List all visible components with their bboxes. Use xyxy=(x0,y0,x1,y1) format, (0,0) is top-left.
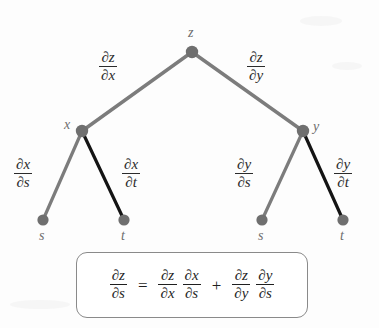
formula-term1-second-fraction: ∂x ∂s xyxy=(183,268,201,302)
node-label-s-left: s xyxy=(39,229,44,243)
node-label-y: y xyxy=(313,120,319,134)
edge-label-dx-dt-denominator: ∂t xyxy=(122,173,140,191)
formula-term2-b-numerator: ∂y xyxy=(256,268,274,284)
node-label-t-left: t xyxy=(121,229,125,243)
formula-lhs-fraction: ∂z ∂s xyxy=(110,268,127,302)
formula-term1-a-denominator: ∂x xyxy=(158,284,176,302)
node-dot-s2 xyxy=(256,214,267,225)
formula-term2-second-fraction: ∂y ∂s xyxy=(256,268,274,302)
formula-term1-a-numerator: ∂z xyxy=(158,268,176,284)
node-label-s-right: s xyxy=(258,229,263,243)
edge-label-dx-ds-denominator: ∂s xyxy=(14,173,32,191)
formula-term1-b-numerator: ∂x xyxy=(183,268,201,284)
node-label-x: x xyxy=(64,118,70,132)
edge-label-dz-dy-denominator: ∂y xyxy=(247,66,265,84)
node-label-t-right: t xyxy=(340,229,344,243)
edge-y-s xyxy=(262,131,303,220)
node-dot-s1 xyxy=(37,214,48,225)
edge-label-dx-dt-numerator: ∂x xyxy=(122,157,140,173)
node-dot-t1 xyxy=(118,214,129,225)
spacer xyxy=(147,276,158,294)
edge-x-t xyxy=(82,131,124,220)
formula-expression: ∂z ∂s = ∂z ∂x ∂x ∂s + ∂z ∂y xyxy=(77,253,307,317)
formula-term2-a-numerator: ∂z xyxy=(232,268,250,284)
formula-lhs-numerator: ∂z xyxy=(110,268,127,284)
edge-label-dz-dx: ∂z ∂x xyxy=(99,50,117,84)
edge-label-dx-dt: ∂x ∂t xyxy=(122,157,140,191)
spacer xyxy=(201,276,212,294)
formula-term1-first-fraction: ∂z ∂x xyxy=(158,268,176,302)
formula-term2-first-fraction: ∂z ∂y xyxy=(232,268,250,302)
edge-x-s xyxy=(43,131,82,220)
spacer xyxy=(127,276,138,294)
edge-label-dy-dt-denominator: ∂t xyxy=(334,173,352,191)
spacer xyxy=(221,276,232,294)
formula-term1-b-denominator: ∂s xyxy=(183,284,201,302)
edge-label-dy-dt: ∂y ∂t xyxy=(334,157,352,191)
formula-box: ∂z ∂s = ∂z ∂x ∂x ∂s + ∂z ∂y xyxy=(76,252,308,318)
edge-label-dy-ds: ∂y ∂s xyxy=(235,157,253,191)
node-dot-y xyxy=(297,125,309,137)
edge-label-dy-ds-numerator: ∂y xyxy=(235,157,253,173)
edge-label-dy-dt-numerator: ∂y xyxy=(334,157,352,173)
formula-term2-a-denominator: ∂y xyxy=(232,284,250,302)
formula-plus-sign: + xyxy=(212,277,222,294)
edge-label-dz-dx-numerator: ∂z xyxy=(99,50,117,66)
node-dot-z xyxy=(186,46,198,58)
node-dot-t2 xyxy=(337,214,348,225)
edge-label-dz-dy: ∂z ∂y xyxy=(247,50,265,84)
edge-label-dx-ds-numerator: ∂x xyxy=(14,157,32,173)
formula-lhs-denominator: ∂s xyxy=(110,284,127,302)
formula-term2-b-denominator: ∂s xyxy=(256,284,274,302)
edge-label-dy-ds-denominator: ∂s xyxy=(235,173,253,191)
formula-equals-sign: = xyxy=(138,277,148,294)
edge-label-dz-dy-numerator: ∂z xyxy=(247,50,265,66)
edge-label-dx-ds: ∂x ∂s xyxy=(14,157,32,191)
chain-rule-tree-diagram: z x y s t s t ∂z ∂x ∂z ∂y ∂x ∂s ∂x ∂t ∂y… xyxy=(0,0,379,328)
node-label-z: z xyxy=(188,26,193,40)
edge-label-dz-dx-denominator: ∂x xyxy=(99,66,117,84)
node-dot-x xyxy=(76,125,88,137)
